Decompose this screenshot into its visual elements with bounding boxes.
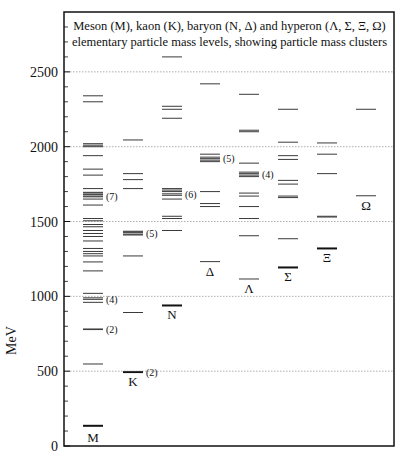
particle-mass-chart: MKNΔΛΣΞΩ (2)(4)(7)(2)(5)(6)(5)(4) 050010… <box>0 0 408 464</box>
column-label: Ω <box>361 198 371 213</box>
y-tick-label: 1000 <box>30 289 58 304</box>
chart-title-line-2: elementary particle mass levels, showing… <box>64 35 395 50</box>
cluster-count-label: (4) <box>262 169 274 181</box>
column-label: N <box>167 307 177 322</box>
column-M <box>83 96 103 426</box>
column-label: M <box>87 430 99 445</box>
y-tick-label: 2000 <box>30 140 58 155</box>
plot-frame <box>64 12 394 446</box>
column-Ξ <box>317 143 337 249</box>
y-tick-label: 2500 <box>30 65 58 80</box>
column-K <box>123 140 143 372</box>
y-tick-label: 500 <box>37 364 58 379</box>
column-label: K <box>128 374 138 389</box>
cluster-labels: (2)(4)(7)(2)(5)(6)(5)(4) <box>106 153 274 379</box>
column-Ω <box>356 109 376 196</box>
column-label: Σ <box>284 269 292 284</box>
y-tick-label: 0 <box>51 439 58 454</box>
cluster-count-label: (2) <box>106 324 118 336</box>
column-label: Ξ <box>323 250 331 265</box>
column-label: Δ <box>206 264 214 279</box>
cluster-count-label: (2) <box>146 367 158 379</box>
column-Σ <box>278 109 298 267</box>
cluster-count-label: (5) <box>223 153 235 165</box>
y-axis-label: MeV <box>4 326 20 355</box>
column-Λ <box>239 94 259 279</box>
column-N <box>162 57 182 306</box>
mass-levels <box>83 57 376 426</box>
chart-title-line-1: Meson (M), kaon (K), baryon (N, Δ) and h… <box>64 19 395 34</box>
cluster-count-label: (4) <box>106 294 118 306</box>
cluster-count-label: (7) <box>106 191 118 203</box>
column-Δ <box>200 84 220 262</box>
column-label: Λ <box>244 281 254 296</box>
cluster-count-label: (5) <box>146 228 158 240</box>
y-tick-label: 1500 <box>30 215 58 230</box>
cluster-count-label: (6) <box>185 189 197 201</box>
